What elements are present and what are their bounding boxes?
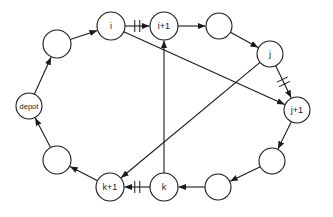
node-depot: depot (16, 93, 42, 119)
node-j1: j+1 (284, 97, 310, 123)
edge-k1-n5 (70, 167, 98, 181)
node-label: depot (20, 102, 40, 111)
edges-layer (34, 20, 291, 193)
edge-line (230, 32, 258, 47)
edge-line (230, 167, 260, 182)
edge-n5-depot (35, 118, 50, 148)
edge-line (35, 118, 50, 148)
edge-line (124, 32, 285, 105)
node-j: j (257, 41, 283, 67)
edge-n1-i (70, 31, 97, 40)
node-n4 (205, 174, 231, 200)
node-circle (43, 146, 71, 174)
edge-i-i1 (125, 20, 150, 32)
node-k1: k+1 (96, 173, 124, 201)
edge-depot-n1 (34, 57, 51, 94)
edge-j-k1 (121, 62, 260, 177)
node-n5 (43, 146, 71, 174)
edge-line (278, 122, 291, 149)
edge-line (34, 57, 51, 94)
edge-k-k1 (125, 181, 151, 193)
node-k: k (150, 173, 178, 201)
node-label: k+1 (103, 182, 118, 192)
node-label: j (268, 49, 271, 59)
edge-line (70, 167, 98, 181)
node-n2 (206, 13, 232, 39)
node-i1: i+1 (150, 12, 178, 40)
node-label: j+1 (290, 105, 303, 115)
edge-line (70, 31, 97, 40)
node-circle (205, 174, 231, 200)
node-circle (206, 13, 232, 39)
edge-j1-n3 (278, 122, 291, 149)
nodes-layer: depotii+1jj+1kk+1 (16, 12, 310, 201)
node-circle (259, 148, 285, 174)
removed-edge-hash-mark (279, 81, 290, 86)
edge-n2-j (230, 32, 258, 47)
route-diagram: depotii+1jj+1kk+1 (0, 0, 333, 217)
node-label: i+1 (158, 21, 170, 31)
node-label: i (110, 21, 112, 31)
node-n1 (43, 30, 71, 58)
edge-j-j1 (276, 66, 291, 98)
edge-n3-n4 (230, 167, 260, 182)
node-i: i (97, 12, 125, 40)
node-n3 (259, 148, 285, 174)
removed-edge-hash-mark (277, 77, 288, 82)
node-circle (43, 30, 71, 58)
edge-line (121, 62, 260, 177)
edge-i-j1 (124, 32, 285, 105)
node-label: k (162, 182, 167, 192)
